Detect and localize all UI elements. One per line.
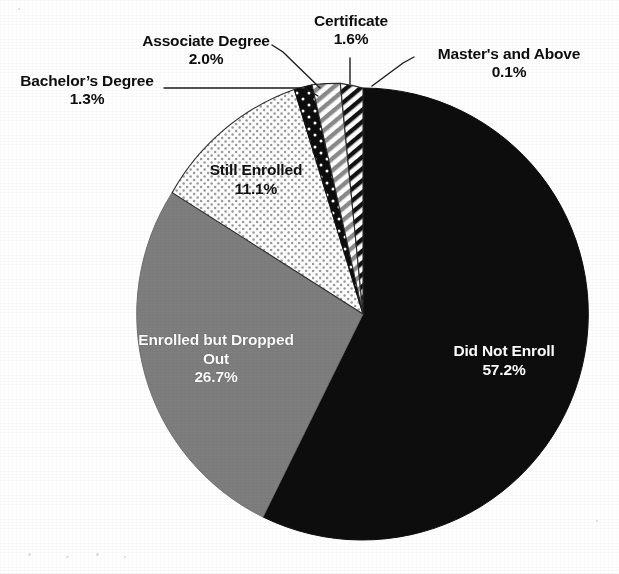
pie-chart: Bachelor’s Degree 1.3% Associate Degree … — [0, 0, 619, 574]
pie-chart-canvas — [0, 0, 619, 574]
leader-line-associate-degree — [272, 45, 320, 88]
leader-line-masters-and-above — [372, 57, 414, 86]
